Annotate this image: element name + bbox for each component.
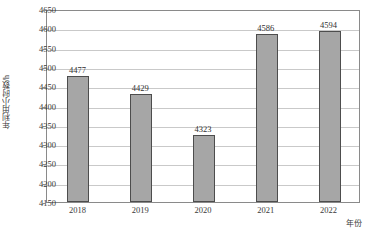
x-tick-label: 2018 [69,206,86,215]
bar [319,31,341,202]
gridline [47,88,359,89]
y-tick-mark [42,87,46,88]
y-tick-mark [42,184,46,185]
y-tick-mark [42,203,46,204]
y-tick-mark [42,145,46,146]
x-tick-label: 2022 [320,206,337,215]
y-tick-mark [42,164,46,165]
bar-value-label: 4586 [257,24,274,33]
gridline [47,30,359,31]
plot-area [46,10,360,203]
gridline [47,108,359,109]
bar-value-label: 4594 [320,21,337,30]
x-axis-title: 年份 [346,220,362,228]
y-tick-mark [42,126,46,127]
y-tick-mark [42,107,46,108]
bar [193,135,215,202]
bar-value-label: 4477 [69,66,86,75]
y-axis-title: 年利用小时数/h [0,0,14,204]
y-axis-title-text: 年利用小时数/h [3,75,11,129]
bar [130,94,152,202]
bar [67,76,89,202]
gridline [47,69,359,70]
x-tick-label: 2020 [195,206,212,215]
y-tick-mark [42,10,46,11]
bar-chart: 年利用小时数/h 4650460045504500445044004350430… [0,0,378,240]
y-tick-mark [42,68,46,69]
bar-value-label: 4323 [195,125,212,134]
bar [256,34,278,202]
x-tick-label: 2021 [257,206,274,215]
y-tick-mark [42,29,46,30]
y-tick-mark [42,49,46,50]
bar-value-label: 4429 [132,84,149,93]
gridline [47,50,359,51]
x-tick-label: 2019 [132,206,149,215]
